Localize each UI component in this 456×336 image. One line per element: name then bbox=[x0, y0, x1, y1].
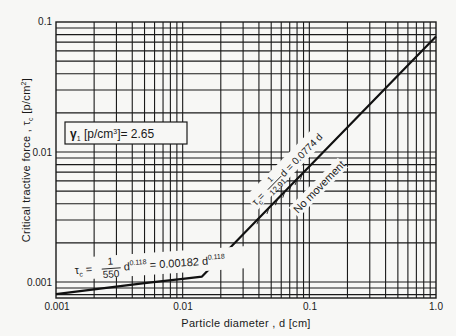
specific-weight-box: γ1 [p/cm3]= 2.65 bbox=[65, 122, 187, 144]
tractive-force-chart: 0.1 0.01 0.001 0.001 0.01 0.1 1.0 Partic… bbox=[0, 0, 456, 336]
y-tick-0.1: 0.1 bbox=[38, 16, 52, 27]
x-axis-label: Particle diameter , d [cm] bbox=[181, 317, 310, 329]
x-tick-0.1: 0.1 bbox=[303, 301, 317, 312]
x-tick-1.0: 1.0 bbox=[429, 301, 443, 312]
y-tick-0.001: 0.001 bbox=[27, 277, 52, 288]
gamma-value: ]= 2.65 bbox=[117, 127, 154, 141]
formula-low-range: τc = 1 550 d0.118 = 0.00182 d0.118 bbox=[71, 246, 252, 282]
specific-weight-label: γ1 [p/cm3]= 2.65 bbox=[70, 127, 155, 142]
gamma-unit: [p/cm bbox=[81, 127, 114, 141]
y-axis-label-main: Critical tractive force , τ bbox=[20, 121, 32, 243]
formula-low-denominator: 550 bbox=[102, 268, 120, 280]
x-tick-0.001: 0.001 bbox=[44, 301, 69, 312]
y-tick-0.01: 0.01 bbox=[33, 147, 53, 158]
y-axis-label-unit: [p/cm bbox=[20, 85, 32, 117]
y-axis-label-close: ] bbox=[20, 78, 32, 81]
x-tick-0.01: 0.01 bbox=[173, 301, 193, 312]
y-axis-label: Critical tractive force , τc [p/cm2] bbox=[20, 78, 34, 242]
